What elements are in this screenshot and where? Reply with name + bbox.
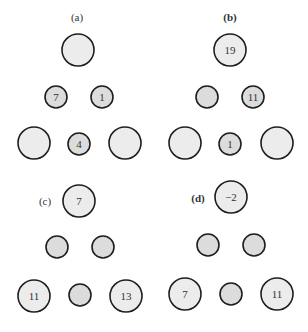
node: 7 [169, 278, 201, 310]
node [62, 34, 94, 66]
node-circle [69, 284, 91, 306]
node: 7 [45, 86, 67, 108]
node-value: 11 [29, 290, 40, 302]
node [169, 127, 201, 159]
node [46, 236, 68, 258]
node [243, 234, 265, 256]
node-value: −2 [225, 191, 237, 203]
node: 4 [68, 133, 90, 155]
node: 11 [18, 280, 50, 312]
panel-label: (b) [223, 11, 237, 24]
node-circle [243, 234, 265, 256]
node-circle [109, 127, 141, 159]
node-value: 1 [227, 138, 233, 150]
panel-label: (a) [71, 11, 84, 24]
node-circle [196, 86, 218, 108]
node [18, 127, 50, 159]
node: 13 [110, 280, 142, 312]
node [109, 127, 141, 159]
node [261, 127, 293, 159]
node [69, 284, 91, 306]
panel-c: (c)71113 [18, 185, 142, 312]
node-circle [46, 236, 68, 258]
panel-label: (c) [39, 195, 52, 208]
node-circle [197, 234, 219, 256]
node [196, 86, 218, 108]
node-circle [62, 34, 94, 66]
node: −2 [215, 181, 247, 213]
node-value: 1 [99, 91, 105, 103]
node-value: 7 [182, 288, 188, 300]
node: 11 [242, 86, 264, 108]
node-circle [220, 283, 242, 305]
node-value: 7 [76, 195, 82, 207]
panel-a: (a)714 [18, 11, 141, 159]
node-circle [261, 127, 293, 159]
node-circle [92, 236, 114, 258]
node: 1 [91, 86, 113, 108]
node: 1 [219, 133, 241, 155]
panel-b: (b)19111 [169, 11, 293, 159]
tree-diagram: (a)714(b)19111(c)71113(d)−2711 [0, 0, 308, 332]
node-circle [169, 127, 201, 159]
node-circle [18, 127, 50, 159]
node [197, 234, 219, 256]
node-value: 7 [53, 91, 59, 103]
panel-d: (d)−2711 [169, 181, 293, 310]
node [92, 236, 114, 258]
node-value: 11 [272, 288, 283, 300]
node-value: 4 [76, 138, 82, 150]
node: 19 [214, 34, 246, 66]
panel-label: (d) [191, 192, 205, 205]
node-value: 13 [121, 290, 133, 302]
node [220, 283, 242, 305]
node: 11 [261, 278, 293, 310]
node: 7 [63, 185, 95, 217]
node-value: 11 [248, 91, 259, 103]
node-value: 19 [225, 44, 237, 56]
